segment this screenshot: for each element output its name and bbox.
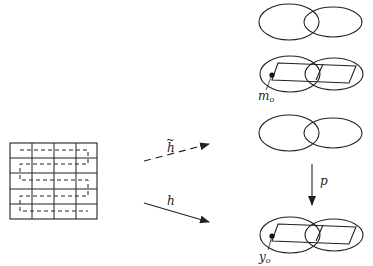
ellipse-pair-1	[259, 4, 362, 40]
h-arrow: h	[144, 194, 209, 222]
p-label: p	[320, 174, 328, 188]
m0-label: mo	[258, 89, 274, 104]
p-arrow: p	[312, 164, 328, 205]
diagram-canvas: h ~ h mo p yo	[0, 0, 373, 266]
ellipse-pair-4	[260, 217, 363, 253]
grid-domain	[10, 143, 97, 219]
ellipse-pair-3	[259, 115, 362, 151]
h-tilde-arrow: h ~	[144, 134, 209, 161]
y0-label: yo	[258, 250, 271, 265]
ellipse-pair-2	[260, 56, 363, 92]
h-label: h	[167, 194, 175, 208]
tilde-accent: ~	[166, 134, 174, 145]
